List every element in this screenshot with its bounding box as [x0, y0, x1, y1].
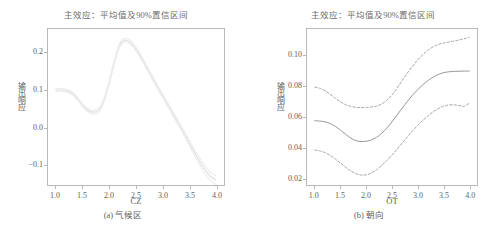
- x-tick-mark: [340, 186, 341, 189]
- panel-b: 主效应：平均值及90%置信区间 0.100.080.060.040.02 1.0…: [246, 0, 492, 235]
- y-tick-mark: [303, 86, 306, 87]
- panel-a-x-label: CZ: [47, 196, 225, 206]
- x-tick-mark: [444, 186, 445, 189]
- x-tick-mark: [470, 186, 471, 189]
- y-tick-label: 0.2: [15, 48, 43, 56]
- panel-a-y-label: 输出响应: [16, 82, 24, 110]
- x-tick-mark: [109, 186, 110, 189]
- panel-a-curves: [48, 29, 224, 185]
- x-tick-mark: [136, 186, 137, 189]
- y-tick-mark: [44, 52, 47, 53]
- curve-90%置信上限: [56, 38, 216, 175]
- y-tick-mark: [44, 90, 47, 91]
- x-tick-mark: [163, 186, 164, 189]
- panel-a-title: 主效应：平均值及90%置信区间: [0, 8, 246, 20]
- x-tick-mark: [366, 186, 367, 189]
- panel-b-x-label: OT: [306, 196, 478, 206]
- figure-container: 主效应：平均值及90%置信区间 0.20.10.0−0.1 1.01.52.02…: [0, 0, 492, 235]
- panel-a-plot-area: [47, 28, 225, 186]
- y-tick-mark: [303, 117, 306, 118]
- y-tick-label: 0.10: [274, 51, 302, 59]
- y-tick-mark: [303, 55, 306, 56]
- x-tick-mark: [82, 186, 83, 189]
- y-tick-mark: [303, 179, 306, 180]
- x-tick-mark: [418, 186, 419, 189]
- y-tick-label: 0.0: [15, 124, 43, 132]
- curve-90%置信下限: [56, 42, 216, 185]
- y-tick-label: 0.02: [274, 175, 302, 183]
- y-tick-mark: [44, 165, 47, 166]
- y-tick-label: −0.1: [15, 161, 43, 169]
- x-tick-mark: [392, 186, 393, 189]
- x-tick-mark: [314, 186, 315, 189]
- panel-b-y-label: 输出响应: [275, 82, 283, 110]
- curve-平均值: [315, 71, 470, 142]
- y-tick-mark: [44, 128, 47, 129]
- x-tick-mark: [55, 186, 56, 189]
- x-tick-mark: [190, 186, 191, 189]
- panel-b-curves: [307, 29, 477, 185]
- y-tick-label: 0.04: [274, 144, 302, 152]
- panel-b-plot-area: [306, 28, 478, 186]
- y-tick-label: 0.06: [274, 113, 302, 121]
- x-tick-mark: [217, 186, 218, 189]
- panel-b-caption: (b) 朝向: [246, 208, 492, 220]
- panel-a-caption: (a) 气候区: [0, 208, 246, 220]
- panel-a: 主效应：平均值及90%置信区间 0.20.10.0−0.1 1.01.52.02…: [0, 0, 246, 235]
- curve-平均值: [56, 40, 216, 180]
- curve-90%置信下限: [315, 103, 470, 175]
- y-tick-mark: [303, 148, 306, 149]
- panel-b-title: 主效应：平均值及90%置信区间: [246, 8, 492, 20]
